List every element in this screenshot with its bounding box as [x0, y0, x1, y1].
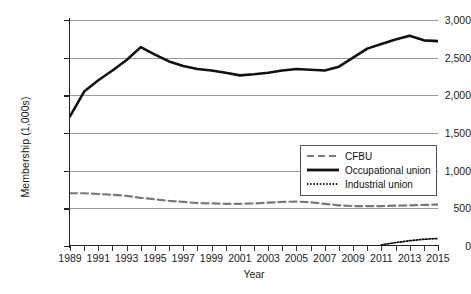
- chart-legend: CFBU Occupational union Industrial union: [300, 145, 437, 196]
- legend-label-cfbu: CFBU: [345, 151, 372, 162]
- x-tick-mark: [339, 246, 340, 251]
- x-tick-mark: [183, 246, 184, 251]
- x-tick-label: 1989: [58, 252, 81, 264]
- x-tick-mark: [268, 246, 269, 251]
- x-tick-label: 2011: [370, 252, 393, 264]
- x-tick-mark: [410, 246, 411, 251]
- x-tick-mark: [70, 246, 71, 251]
- legend-swatch-dashed: [306, 150, 340, 162]
- x-tick-label: 2009: [341, 252, 364, 264]
- x-tick-label: 1997: [172, 252, 195, 264]
- x-tick-mark: [311, 246, 312, 251]
- x-tick-label: 1995: [143, 252, 166, 264]
- legend-item-cfbu: CFBU: [306, 149, 431, 163]
- series-line-industrial-union: [381, 238, 438, 244]
- legend-label-occupational-union: Occupational union: [345, 165, 431, 176]
- x-tick-mark: [197, 246, 198, 251]
- x-tick-mark: [254, 246, 255, 251]
- x-tick-mark: [112, 246, 113, 251]
- x-tick-mark: [325, 246, 326, 251]
- x-tick-label: 1993: [115, 252, 138, 264]
- x-tick-label: 2001: [228, 252, 251, 264]
- x-tick-mark: [240, 246, 241, 251]
- x-tick-mark: [98, 246, 99, 251]
- x-tick-mark: [367, 246, 368, 251]
- x-tick-label: 2013: [398, 252, 421, 264]
- x-tick-label: 2005: [285, 252, 308, 264]
- legend-item-industrial-union: Industrial union: [306, 177, 431, 191]
- x-tick-mark: [296, 246, 297, 251]
- legend-label-industrial-union: Industrial union: [345, 179, 413, 190]
- series-line-occupational-union: [70, 36, 438, 117]
- x-tick-mark: [424, 246, 425, 251]
- x-tick-mark: [282, 246, 283, 251]
- legend-swatch-dotted: [306, 178, 340, 190]
- x-tick-mark: [127, 246, 128, 251]
- x-tick-mark: [381, 246, 382, 251]
- plot-area: [70, 20, 438, 246]
- x-tick-mark: [396, 246, 397, 251]
- legend-item-occupational-union: Occupational union: [306, 163, 431, 177]
- x-tick-mark: [169, 246, 170, 251]
- x-axis-title: Year: [70, 268, 438, 280]
- x-tick-label: 2007: [313, 252, 336, 264]
- membership-line-chart: Membership (1,000s) 05001,0001,5002,0002…: [0, 0, 471, 294]
- y-axis-title: Membership (1,000s): [14, 0, 36, 294]
- series-lines: [70, 20, 438, 246]
- x-tick-mark: [353, 246, 354, 251]
- x-tick-label: 2015: [426, 252, 449, 264]
- x-tick-mark: [84, 246, 85, 251]
- legend-swatch-solid: [306, 164, 340, 176]
- x-tick-mark: [226, 246, 227, 251]
- x-tick-label: 1999: [200, 252, 223, 264]
- x-tick-mark: [141, 246, 142, 251]
- x-tick-mark: [438, 246, 439, 251]
- x-tick-mark: [155, 246, 156, 251]
- x-tick-mark: [212, 246, 213, 251]
- x-tick-label: 2003: [256, 252, 279, 264]
- x-tick-label: 1991: [87, 252, 110, 264]
